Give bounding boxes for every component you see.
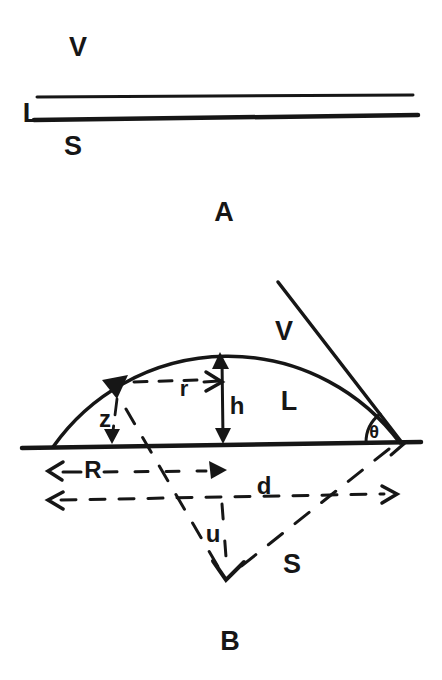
liquid-label-a: L [23,98,40,128]
figure-b-sessile-drop-diagram: θ V L S h r z [22,282,421,656]
radius-dashed-line [134,380,200,382]
film-bottom-interface-line [34,115,418,120]
base-diameter-label: d [257,472,272,499]
height-measure-line [222,360,223,438]
figure-a-caption: A [214,197,234,227]
z-dashed-line [113,399,117,431]
contact-angle-label: θ [369,422,379,442]
figure-canvas: V L S A θ V L S [0,0,442,680]
center-depth-label: u [206,520,221,547]
scanned-figure-page: V L S A θ V L S [0,0,442,680]
height-arrow-down-icon [215,428,231,444]
substrate-label-b: S [283,549,301,579]
substrate-baseline [22,442,421,448]
sphere-radius-right-dashed-line [234,449,389,572]
base-radius-arrow-left-icon [48,462,63,480]
figure-b-caption: B [220,626,240,656]
height-z-label: z [99,405,111,432]
radius-at-z-label: r [180,376,189,401]
figure-a-flat-film-diagram: V L S A [23,32,418,227]
substrate-label-a: S [64,131,82,161]
diameter-dashed-line [61,494,384,500]
base-radius-dashed-line [104,471,206,472]
vapor-label-b: V [275,316,293,346]
film-top-interface-line [37,95,413,97]
vapor-label-a: V [69,32,87,62]
center-axis-dashed-line [222,504,226,557]
base-radius-arrow-right-icon [209,461,227,479]
base-radius-label: R [84,456,101,483]
liquid-label-b: L [281,386,298,416]
radius-arrow-shaft [204,381,219,382]
drop-height-label: h [230,392,245,419]
contact-tangent-line [278,282,403,444]
